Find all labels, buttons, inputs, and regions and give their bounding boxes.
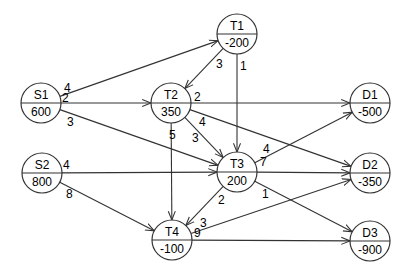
edge-cost-label: 1: [262, 187, 269, 201]
edge-cost-label: 9: [194, 226, 201, 240]
node-name: T2: [164, 88, 178, 102]
node-name: T3: [230, 157, 244, 171]
edge-s2-t4: [60, 182, 154, 231]
edge-cost-label: 3: [192, 131, 199, 145]
node-value: 200: [227, 174, 247, 188]
edge-cost-label: 7: [260, 155, 267, 169]
node-s1[interactable]: S1600: [21, 83, 61, 123]
edge-cost-label: 2: [194, 90, 201, 104]
edge-cost-label: 1: [240, 59, 247, 73]
node-t1[interactable]: T1-200: [217, 14, 257, 54]
edge-cost-label: 2: [62, 91, 69, 105]
node-value: -350: [358, 175, 382, 189]
edge-cost-label: 2: [218, 193, 225, 207]
node-name: D3: [362, 226, 378, 240]
edge-cost-label: 4: [199, 115, 206, 129]
node-value: 600: [31, 105, 51, 119]
edge-t3-d2: [257, 172, 350, 173]
edge-s1-t1: [60, 41, 218, 97]
node-value: 350: [161, 105, 181, 119]
edge-t4-d3: [192, 240, 350, 241]
node-d3[interactable]: D3-900: [350, 221, 390, 261]
node-name: D2: [362, 158, 378, 172]
node-name: S2: [35, 158, 50, 172]
diagram-canvas: 42331243548471239 S1600S2800T1-200T2350T…: [0, 0, 409, 276]
node-name: S1: [34, 88, 49, 102]
edge-s2-t3: [62, 172, 217, 173]
node-value: -200: [225, 36, 249, 50]
edge-cost-label: 3: [200, 216, 207, 230]
edge-cost-label: 4: [263, 142, 270, 156]
node-t3[interactable]: T3200: [217, 152, 257, 192]
node-name: D1: [362, 88, 378, 102]
edge-cost-label: 3: [216, 57, 223, 71]
node-s2[interactable]: S2800: [22, 153, 62, 193]
node-name: T4: [165, 225, 179, 239]
node-value: -500: [358, 105, 382, 119]
node-d1[interactable]: D1-500: [350, 83, 390, 123]
node-value: -900: [358, 243, 382, 257]
edge-t4-d2: [191, 179, 351, 233]
network-diagram: 42331243548471239 S1600S2800T1-200T2350T…: [0, 0, 409, 276]
edge-cost-label: 4: [63, 158, 70, 172]
node-name: T1: [230, 19, 244, 33]
edge-cost-label: 5: [169, 128, 176, 142]
node-value: -100: [160, 242, 184, 256]
edges-layer: [60, 41, 352, 241]
node-value: 800: [32, 175, 52, 189]
node-t2[interactable]: T2350: [151, 83, 191, 123]
edge-cost-label: 8: [66, 187, 73, 201]
edge-cost-label: 3: [67, 115, 74, 129]
node-d2[interactable]: D2-350: [350, 153, 390, 193]
node-t4[interactable]: T4-100: [152, 220, 192, 260]
edge-t2-d2: [190, 110, 351, 167]
